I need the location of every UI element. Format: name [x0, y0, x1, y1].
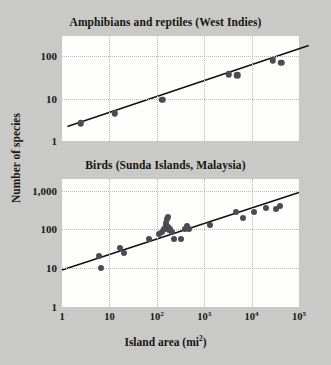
y-tick-label: 10 [0, 262, 57, 274]
x-tick-label: 102 [150, 311, 164, 322]
data-point [78, 120, 85, 127]
x-axis-label-text: Island area (mi [124, 336, 199, 348]
data-point [96, 253, 102, 259]
chart-panel-amphibians: Amphibians and reptiles (West Indies) 11… [0, 0, 331, 155]
data-point [159, 96, 166, 103]
x-tick-label: 105 [292, 311, 306, 322]
y-tick-label: 1,000 [0, 185, 57, 197]
data-point [165, 214, 171, 220]
data-point [146, 236, 152, 242]
gridline-horizontal [62, 56, 299, 57]
data-point [233, 209, 239, 215]
gridline-horizontal [62, 229, 299, 230]
species-area-figure: Number of species Amphibians and reptile… [0, 0, 331, 365]
trendline-birds [62, 179, 299, 307]
data-point [278, 60, 285, 67]
plot-area-amphibians [62, 36, 299, 141]
data-point [121, 250, 127, 256]
y-tick-label: 100 [0, 223, 57, 235]
data-point [277, 203, 283, 209]
gridline-vertical [252, 36, 253, 141]
gridline-vertical [252, 179, 253, 307]
y-tick-label: 1 [0, 301, 57, 313]
data-point [234, 72, 241, 79]
x-tick-label: 103 [197, 311, 211, 322]
data-point [270, 57, 277, 64]
data-point [263, 205, 269, 211]
gridline-vertical [109, 36, 110, 141]
trendline-amphibians [62, 36, 299, 141]
chart-panel-birds: Birds (Sunda Islands, Malaysia) 1101001,… [0, 155, 331, 365]
y-tick-label: 1 [0, 135, 57, 147]
data-point [251, 209, 257, 215]
gridline-vertical [204, 179, 205, 307]
data-point [171, 236, 177, 242]
gridline-horizontal [62, 99, 299, 100]
chart-title-birds: Birds (Sunda Islands, Malaysia) [0, 159, 331, 171]
data-point [98, 265, 104, 271]
gridline-vertical [157, 179, 158, 307]
data-point [169, 229, 175, 235]
x-tick-label: 104 [245, 311, 259, 322]
data-point [240, 215, 246, 221]
x-axis-label-suffix: ) [203, 336, 207, 348]
x-tick-label: 10 [104, 311, 115, 322]
data-point [226, 71, 233, 78]
chart-title-amphibians: Amphibians and reptiles (West Indies) [0, 16, 331, 28]
data-point [112, 110, 119, 117]
data-point [186, 226, 192, 232]
gridline-vertical [109, 179, 110, 307]
data-point [207, 222, 213, 228]
gridline-vertical [204, 36, 205, 141]
x-tick-label: 1 [59, 311, 64, 322]
gridline-vertical [157, 36, 158, 141]
gridline-horizontal [62, 191, 299, 192]
x-axis-label: Island area (mi2) [0, 336, 331, 348]
data-point [178, 236, 184, 242]
y-tick-label: 100 [0, 50, 57, 62]
y-tick-label: 10 [0, 93, 57, 105]
plot-area-birds [62, 179, 299, 307]
